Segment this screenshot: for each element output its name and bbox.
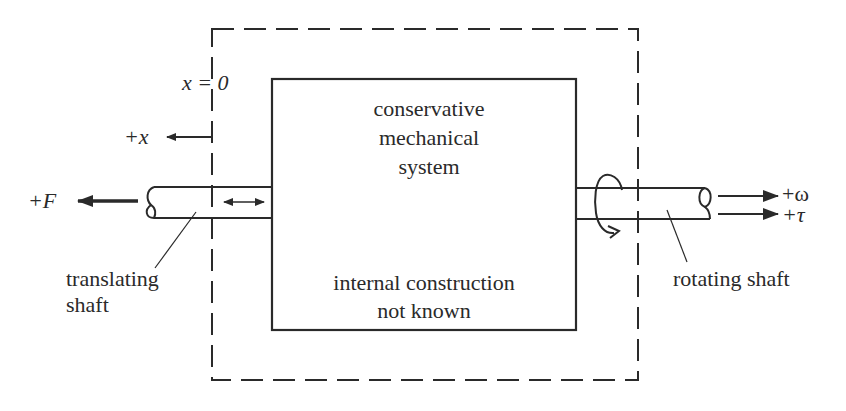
torque-label-text: +τ: [782, 202, 805, 227]
rotating-shaft-label: rotating shaft: [673, 266, 790, 292]
force-label-text: +F: [28, 188, 56, 213]
origin-label-text: x = 0: [182, 70, 229, 95]
diagram-canvas: [0, 0, 846, 411]
translating-shaft-label-line-2: shaft: [66, 292, 159, 318]
system-title-line-2: mechanical: [330, 123, 528, 152]
torque-label: +τ: [782, 202, 805, 228]
rotating-shaft-leader: [667, 210, 687, 262]
force-label: +F: [28, 188, 56, 214]
translating-shaft-label: translating shaft: [66, 266, 159, 318]
translating-shaft-label-line-1: translating: [66, 266, 159, 292]
system-title-line-1: conservative: [330, 94, 528, 123]
system-title: conservative mechanical system: [330, 94, 528, 181]
rotating-shaft-label-text: rotating shaft: [673, 266, 790, 291]
system-note-line-2: not known: [300, 297, 548, 325]
translating-shaft-leader: [155, 212, 196, 268]
system-title-line-3: system: [330, 152, 528, 181]
system-note-line-1: internal construction: [300, 269, 548, 297]
origin-label: x = 0: [182, 70, 229, 96]
system-note: internal construction not known: [300, 269, 548, 325]
rotation-arrow-icon: [595, 175, 622, 238]
x-axis-label: +x: [124, 124, 149, 150]
x-axis-label-text: +x: [124, 124, 149, 149]
lossless-mechanical-system-diagram: x = 0 +x +F translating shaft conservati…: [0, 0, 846, 411]
